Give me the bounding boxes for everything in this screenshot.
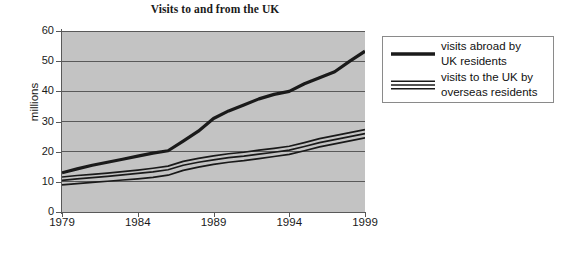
series-visits-abroad-line	[62, 51, 365, 173]
y-tick-label: 20	[26, 146, 54, 157]
x-tick-label: 1994	[267, 216, 311, 229]
y-tick-mark	[56, 122, 61, 123]
legend-label-line-2: UK residents	[441, 54, 553, 69]
legend-item-visits-to-uk: visits to the UK by overseas residents	[383, 70, 555, 101]
y-tick-label: 50	[26, 55, 54, 66]
y-tick-mark	[56, 61, 61, 62]
legend-label-line-1: visits abroad by	[441, 39, 553, 54]
legend-label-visits-to-uk: visits to the UK by overseas residents	[441, 70, 553, 100]
triple-line-swatch-icon	[391, 78, 435, 92]
plot-area	[62, 31, 365, 212]
x-tick-mark	[289, 213, 290, 217]
legend-label-line-1: visits to the UK by	[441, 70, 553, 85]
legend-item-visits-abroad: visits abroad by UK residents	[383, 39, 555, 70]
y-tick-mark	[56, 182, 61, 183]
legend-label-line-2: overseas residents	[441, 85, 553, 100]
y-tick-label: 30	[26, 116, 54, 127]
thick-line-swatch-icon	[391, 47, 435, 61]
x-tick-label: 1979	[40, 216, 84, 229]
y-tick-mark	[56, 31, 61, 32]
series-visits-to-uk-line	[62, 130, 365, 185]
x-tick-mark	[138, 213, 139, 217]
legend-label-visits-abroad: visits abroad by UK residents	[441, 39, 553, 69]
y-tick-label: 60	[26, 25, 54, 36]
plot-svg	[62, 31, 365, 212]
chart-legend: visits abroad by UK residents visits to …	[382, 36, 554, 103]
x-tick-mark	[214, 213, 215, 217]
y-tick-mark	[56, 212, 61, 213]
y-tick-mark	[56, 152, 61, 153]
x-tick-mark	[62, 213, 63, 217]
y-tick-label: 10	[26, 176, 54, 187]
chart-title: Visits to and from the UK	[55, 3, 375, 15]
x-tick-label: 1989	[192, 216, 236, 229]
x-tick-label: 1984	[116, 216, 160, 229]
chart-figure: Visits to and from the UK millions 01020…	[0, 0, 565, 253]
y-tick-mark	[56, 91, 61, 92]
x-tick-mark	[365, 213, 366, 217]
y-axis-title: millions	[28, 67, 40, 137]
x-tick-label: 1999	[343, 216, 387, 229]
y-tick-label: 40	[26, 85, 54, 96]
